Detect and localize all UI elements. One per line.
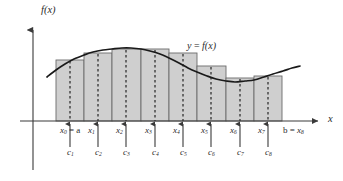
x-tick-subscript: 1 bbox=[92, 129, 95, 135]
figure-canvas bbox=[0, 0, 343, 181]
c-tick-subscript: 3 bbox=[127, 151, 130, 157]
riemann-rectangles bbox=[56, 49, 282, 121]
x-tick-subscript: 4 bbox=[177, 129, 180, 135]
y-axis-label: f(x) bbox=[41, 5, 56, 16]
c-tick-label-c7: c7 bbox=[237, 148, 244, 158]
c-tick-label-c3: c3 bbox=[123, 148, 130, 158]
c-tick-label-c8: c8 bbox=[265, 148, 272, 158]
riemann-sum-figure: f(x) x y = f(x) x0 = ax1x2x3x4x5x6x7b = … bbox=[0, 0, 343, 181]
c-tick-label-c5: c5 bbox=[180, 148, 187, 158]
x-tick-label-x2: x2 bbox=[116, 126, 123, 136]
c-tick-label-c2: c2 bbox=[95, 148, 102, 158]
curve-label-fx: f(x) bbox=[202, 40, 216, 51]
x-axis-label: x bbox=[328, 114, 333, 125]
c-tick-subscript: 5 bbox=[184, 151, 187, 157]
x-tick-label-x8: b = x8 bbox=[283, 126, 304, 136]
c-tick-label-c4: c4 bbox=[152, 148, 159, 158]
c-tick-subscript: 6 bbox=[212, 151, 215, 157]
c-tick-label-c1: c1 bbox=[67, 148, 74, 158]
c-tick-subscript: 4 bbox=[156, 151, 159, 157]
x-tick-subscript: 5 bbox=[205, 129, 208, 135]
x-tick-prefix: b = bbox=[283, 125, 297, 135]
x-tick-label-x1: x1 bbox=[88, 126, 95, 136]
x-tick-subscript: 3 bbox=[149, 129, 152, 135]
c-tick-subscript: 1 bbox=[71, 151, 74, 157]
x-tick-label-x5: x5 bbox=[201, 126, 208, 136]
c-tick-label-c6: c6 bbox=[208, 148, 215, 158]
c-tick-subscript: 8 bbox=[269, 151, 272, 157]
c-tick-subscript: 2 bbox=[99, 151, 102, 157]
x-tick-subscript: 8 bbox=[301, 129, 304, 135]
curve-equation-label: y = f(x) bbox=[187, 41, 216, 51]
x-tick-suffix: = a bbox=[67, 125, 81, 135]
x-tick-label-x3: x3 bbox=[145, 126, 152, 136]
curve-label-equals: = bbox=[191, 40, 202, 51]
x-tick-label-x4: x4 bbox=[173, 126, 180, 136]
x-tick-subscript: 7 bbox=[262, 129, 265, 135]
x-tick-label-x0: x0 = a bbox=[60, 126, 80, 136]
x-tick-label-x6: x6 bbox=[230, 126, 237, 136]
c-tick-subscript: 7 bbox=[241, 151, 244, 157]
x-tick-label-x7: x7 bbox=[258, 126, 265, 136]
x-tick-subscript: 2 bbox=[120, 129, 123, 135]
midpoint-arrows bbox=[70, 124, 268, 147]
x-tick-subscript: 6 bbox=[234, 129, 237, 135]
